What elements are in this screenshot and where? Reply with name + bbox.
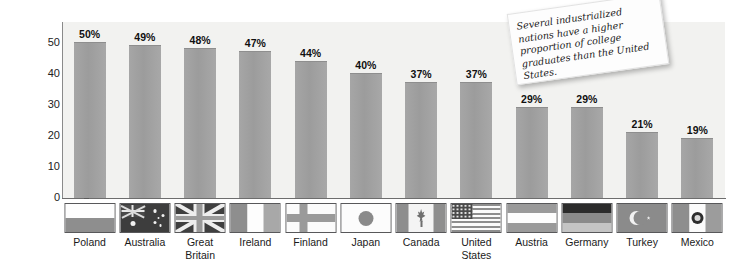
bar-group[interactable]: 50%	[62, 0, 117, 198]
category-label-line: Japan	[338, 236, 393, 249]
category-label-line: States	[449, 249, 504, 262]
y-tick-label: 20	[26, 130, 60, 141]
bar-value-label: 48%	[190, 34, 211, 46]
bar[interactable]	[239, 51, 271, 198]
y-tick-label: 0	[26, 192, 60, 203]
bar-value-label: 37%	[466, 68, 487, 80]
category-label: Austria	[504, 236, 559, 249]
bar-value-label: 29%	[521, 93, 542, 105]
category-labels: PolandAustraliaGreatBritainIrelandFinlan…	[62, 236, 725, 271]
category-label-line: Finland	[283, 236, 338, 249]
bar-group[interactable]: 47%	[228, 0, 283, 198]
flag-cell	[615, 203, 670, 233]
bar-value-label: 19%	[687, 124, 708, 136]
flag-australia-icon	[119, 203, 170, 233]
bar-value-label: 44%	[300, 47, 321, 59]
bar[interactable]	[129, 45, 161, 198]
category-label: Mexico	[670, 236, 725, 249]
y-tick-label: 30	[26, 99, 60, 110]
flag-cell	[173, 203, 228, 233]
flag-cell	[394, 203, 449, 233]
bar[interactable]	[626, 132, 658, 198]
flag-cell	[117, 203, 172, 233]
category-label: Germany	[559, 236, 614, 249]
bar-group[interactable]: 19%	[670, 0, 725, 198]
bar-value-label: 49%	[134, 31, 155, 43]
bar-group[interactable]: 48%	[173, 0, 228, 198]
category-label: Australia	[117, 236, 172, 249]
category-label-line: Germany	[559, 236, 614, 249]
flag-canada-icon	[396, 203, 447, 233]
bar-value-label: 40%	[355, 59, 376, 71]
bar-value-label: 29%	[576, 93, 597, 105]
bar[interactable]	[516, 107, 548, 198]
category-label-line: Great	[173, 236, 228, 249]
flag-cell	[228, 203, 283, 233]
category-label-line: Canada	[394, 236, 449, 249]
flag-cell	[449, 203, 504, 233]
flag-united-states-icon	[451, 203, 502, 233]
category-label: Canada	[394, 236, 449, 249]
flag-great-britain-icon	[175, 203, 226, 233]
flag-cell	[62, 203, 117, 233]
bar[interactable]	[460, 82, 492, 198]
category-label-line: Mexico	[670, 236, 725, 249]
category-label-line: Austria	[504, 236, 559, 249]
y-tick-label: 40	[26, 68, 60, 79]
flag-finland-icon	[285, 203, 336, 233]
category-label-line: Ireland	[228, 236, 283, 249]
flag-cell	[670, 203, 725, 233]
bar-value-label: 50%	[79, 28, 100, 40]
bar[interactable]	[405, 82, 437, 198]
bar[interactable]	[295, 61, 327, 198]
bar-group[interactable]: 44%	[283, 0, 338, 198]
flag-japan-icon	[340, 203, 391, 233]
flag-cell	[504, 203, 559, 233]
category-label-line: United	[449, 236, 504, 249]
flag-turkey-icon	[617, 203, 668, 233]
flag-cell	[559, 203, 614, 233]
flag-row	[62, 203, 725, 233]
category-label-line: Australia	[117, 236, 172, 249]
category-label: Poland	[62, 236, 117, 249]
category-label: UnitedStates	[449, 236, 504, 261]
bar-group[interactable]: 49%	[117, 0, 172, 198]
bar-value-label: 21%	[632, 118, 653, 130]
bar[interactable]	[571, 107, 603, 198]
bar-group[interactable]: 37%	[394, 0, 449, 198]
flag-poland-icon	[64, 203, 115, 233]
category-label: Turkey	[615, 236, 670, 249]
flag-austria-icon	[506, 203, 557, 233]
y-axis-ticks: 50403020100	[24, 0, 60, 271]
category-label: Japan	[338, 236, 393, 249]
category-label-line: Poland	[62, 236, 117, 249]
flag-cell	[283, 203, 338, 233]
y-tick-mark	[84, 198, 89, 199]
category-label: Finland	[283, 236, 338, 249]
bar[interactable]	[74, 42, 106, 198]
category-label-line: Britain	[173, 249, 228, 262]
flag-cell	[338, 203, 393, 233]
bar-value-label: 47%	[245, 37, 266, 49]
bar-group[interactable]: 37%	[449, 0, 504, 198]
bar[interactable]	[184, 48, 216, 198]
bar[interactable]	[681, 138, 713, 198]
bar-chart: Percent 50403020100 50%49%48%47%44%40%37…	[0, 0, 738, 271]
category-label: GreatBritain	[173, 236, 228, 261]
y-tick-label: 10	[26, 161, 60, 172]
flag-mexico-icon	[672, 203, 723, 233]
flag-ireland-icon	[230, 203, 281, 233]
bar-value-label: 37%	[411, 68, 432, 80]
flag-germany-icon	[561, 203, 612, 233]
category-label: Ireland	[228, 236, 283, 249]
bar-group[interactable]: 40%	[338, 0, 393, 198]
category-label-line: Turkey	[615, 236, 670, 249]
bar[interactable]	[350, 73, 382, 198]
y-tick-label: 50	[26, 37, 60, 48]
x-axis-line	[62, 198, 726, 199]
